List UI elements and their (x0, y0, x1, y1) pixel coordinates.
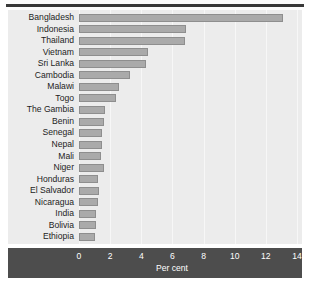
bar (79, 48, 148, 56)
top-rule-divider (6, 4, 304, 7)
x-tick-label: 8 (201, 251, 206, 261)
bar (79, 14, 283, 22)
bar-row (8, 220, 302, 232)
bar (79, 198, 98, 206)
bar-rows (8, 12, 302, 243)
bar (79, 60, 146, 68)
bar-row (8, 185, 302, 197)
bar (79, 164, 104, 172)
bar (79, 83, 119, 91)
bar-row (8, 58, 302, 70)
bar-row (8, 231, 302, 243)
bar-row (8, 47, 302, 59)
bar-row (8, 151, 302, 163)
bar (79, 221, 96, 229)
bar (79, 25, 186, 33)
x-tick-label: 12 (261, 251, 271, 261)
bar-row (8, 35, 302, 47)
bar-row (8, 139, 302, 151)
x-axis-title-text: Per cent (156, 263, 188, 273)
bar-row (8, 70, 302, 82)
bar (79, 71, 130, 79)
x-axis-band: 02468101214 Per cent (8, 248, 302, 278)
bar-row (8, 162, 302, 174)
bar-row (8, 81, 302, 93)
bar (79, 187, 99, 195)
bar-row (8, 93, 302, 105)
bar (79, 141, 102, 149)
x-axis-title: Per cent (8, 263, 302, 273)
x-tick-label: 0 (77, 251, 82, 261)
bar (79, 106, 105, 114)
bar-row (8, 104, 302, 116)
bar-row (8, 197, 302, 209)
bar-row (8, 127, 302, 139)
chart-figure: BangladeshIndonesiaThailandVietnamSri La… (0, 0, 310, 282)
x-tick-label: 10 (230, 251, 240, 261)
bar (79, 118, 104, 126)
bar-row (8, 116, 302, 128)
x-tick-label: 2 (108, 251, 113, 261)
bar-row (8, 174, 302, 186)
bar-row (8, 12, 302, 24)
bar (79, 129, 102, 137)
bar (79, 233, 95, 241)
bar-row (8, 208, 302, 220)
bar (79, 210, 96, 218)
bar (79, 152, 101, 160)
bar (79, 37, 185, 45)
bar-row (8, 24, 302, 36)
x-tick-label: 4 (139, 251, 144, 261)
plot-area: BangladeshIndonesiaThailandVietnamSri La… (8, 10, 302, 244)
x-tick-label: 14 (292, 251, 302, 261)
bar (79, 94, 116, 102)
x-tick-label: 6 (170, 251, 175, 261)
bar (79, 175, 98, 183)
